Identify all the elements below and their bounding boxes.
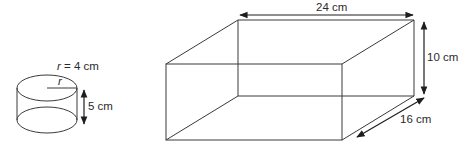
front-face <box>166 64 342 140</box>
cylinder-bottom-ellipse <box>17 107 77 133</box>
cylinder-height-label: 5 cm <box>88 100 113 112</box>
cuboid: 24 cm 10 cm 16 cm <box>166 1 458 140</box>
cylinder-radius-label: r = 4 cm <box>57 60 99 72</box>
length-label: 24 cm <box>316 1 347 13</box>
top-right-depth-edge <box>342 20 414 64</box>
radius-value: = 4 cm <box>61 60 99 72</box>
top-left-depth-edge <box>166 20 238 64</box>
cylinder: r 5 cm r = 4 cm <box>17 60 113 133</box>
depth-label: 16 cm <box>400 113 431 125</box>
diagram-canvas: r 5 cm r = 4 cm 24 cm 10 cm 16 cm <box>0 0 470 152</box>
bottom-left-depth-edge <box>166 96 238 140</box>
height-label: 10 cm <box>427 51 458 63</box>
